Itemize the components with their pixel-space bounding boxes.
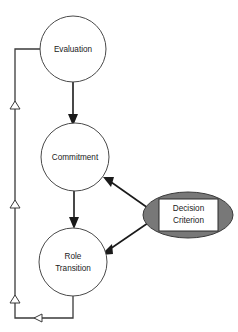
decision-role-transition-line — [110, 223, 148, 249]
role-transition-label-line2: Transition — [55, 264, 91, 273]
commitment-label: Commitment — [52, 153, 99, 162]
diagram-canvas: Evaluation Commitment Role Transition De… — [0, 0, 238, 332]
evaluation-label: Evaluation — [54, 45, 93, 54]
decision-commitment-line — [111, 182, 148, 208]
edge-commitment-to-role-transition — [69, 191, 79, 229]
edge-decision-to-role-transition — [101, 223, 148, 255]
role-transition-circle[interactable] — [39, 228, 107, 296]
decision-commitment-arrowhead — [103, 177, 114, 187]
hollow-triangle-marker-upper — [10, 101, 20, 109]
decision-criterion-label-line1: Decision — [173, 204, 205, 213]
node-commitment[interactable]: Commitment — [41, 123, 109, 191]
decision-criterion-label-line2: Criterion — [173, 216, 204, 225]
hollow-triangle-marker-bottom — [34, 314, 42, 322]
hollow-triangle-marker-lower — [10, 295, 20, 303]
node-role-transition[interactable]: Role Transition — [39, 228, 107, 296]
role-transition-label-line1: Role — [65, 252, 82, 261]
edge-decision-to-commitment — [103, 177, 148, 208]
edge-evaluation-to-commitment — [68, 82, 78, 126]
node-evaluation[interactable]: Evaluation — [40, 16, 106, 82]
node-decision-criterion[interactable]: Decision Criterion — [143, 192, 233, 238]
flow-diagram: Evaluation Commitment Role Transition De… — [0, 0, 238, 332]
hollow-triangle-marker-middle — [10, 200, 20, 208]
commitment-role-transition-arrowhead — [69, 217, 79, 229]
